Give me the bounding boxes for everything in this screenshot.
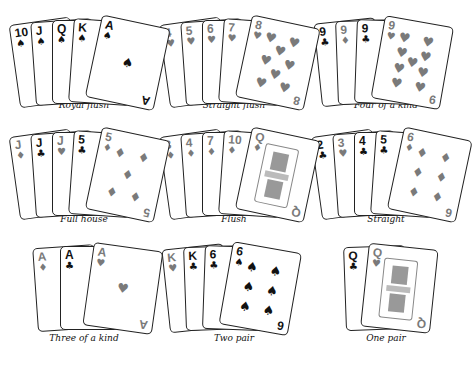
card-rank-bottom: Q	[290, 206, 302, 220]
suit-icon: ♣	[349, 262, 358, 272]
suit-pip-icon: ♥	[416, 65, 430, 80]
suit-pip-icon: ♠	[238, 299, 252, 314]
suit-pip-icon: ♥	[390, 76, 404, 91]
suit-pip-icon: ♦	[430, 190, 444, 205]
hand-royal-flush: 10♠J♠Q♠K♠A♠♠A	[14, 18, 154, 128]
card-rank-bottom: 5	[142, 206, 151, 219]
suit-pip-icon: ♦	[113, 145, 127, 160]
playing-card: 6♠♠♠♠♠♠♠6	[219, 241, 303, 336]
suit-icon: ♣	[379, 145, 389, 156]
suit-icon: ♣	[77, 145, 87, 156]
suit-icon: ♣	[318, 150, 328, 161]
suit-pip-icon: ♥	[419, 49, 433, 64]
suit-icon: ♥	[57, 147, 66, 157]
hand-four-of-a-kind: 9♣9♦9♣9♥♥♥♥♥♥♥♥♥♥9	[316, 18, 456, 128]
suit-icon: ♣	[65, 261, 74, 271]
suit-pip-icon: ♥	[421, 34, 435, 49]
suit-icon: ♣	[320, 37, 330, 48]
suit-icon: ♠	[36, 36, 46, 47]
card-rank-bottom: 8	[292, 94, 301, 107]
playing-card: Q♥Q	[360, 243, 438, 334]
suit-icon: ♦	[227, 145, 237, 156]
suit-pip-icon: ♥	[398, 30, 412, 45]
suit-icon: ♣	[36, 148, 46, 159]
suit-pip-icon: ♥	[282, 58, 296, 73]
suit-icon: ♥	[207, 35, 216, 45]
suit-icon: ♣	[189, 262, 198, 272]
suit-icon: ♣	[359, 147, 368, 157]
queen-face-art	[378, 258, 418, 321]
card-rank-bottom: A	[139, 318, 149, 331]
suit-pip-icon: ♦	[434, 170, 448, 185]
playing-card: A♥♥A	[82, 242, 163, 335]
suit-icon: ♣	[209, 260, 218, 270]
suit-icon: ♥	[168, 263, 178, 274]
card-rank-bottom: Q	[416, 317, 427, 330]
suit-icon: ♠	[16, 38, 26, 49]
suit-pip-icon: ♠	[265, 283, 279, 298]
suit-pip-icon: ♥	[278, 81, 292, 96]
suit-pip-icon: ♥	[413, 80, 427, 95]
suit-icon: ♥	[371, 258, 381, 269]
suit-icon: ♠	[57, 35, 66, 45]
suit-pip-icon: ♥	[287, 35, 301, 50]
card-rank-bottom: 6	[276, 319, 285, 332]
card-rank-bottom: 9	[428, 93, 437, 106]
suit-pip-icon: ♠	[242, 279, 256, 294]
suit-pip-icon: ♦	[121, 167, 135, 182]
suit-pip-icon: ♦	[128, 190, 142, 205]
card-rank-bottom: 6	[444, 206, 453, 219]
suit-pip-icon: ♠	[269, 263, 283, 278]
suit-icon: ♦	[252, 142, 263, 154]
suit-icon: ♦	[16, 150, 26, 161]
suit-icon: ♥	[186, 36, 196, 47]
suit-pip-icon: ♦	[137, 150, 151, 165]
suit-pip-icon: ♥	[392, 61, 406, 76]
suit-pip-icon: ♦	[407, 185, 421, 200]
suit-icon: ♦	[186, 148, 196, 159]
suit-pip-icon: ♥	[254, 76, 268, 91]
suit-pip-icon: ♠	[121, 55, 135, 70]
suit-pip-icon: ♥	[116, 281, 129, 295]
hand-label: Three of a kind	[14, 333, 154, 343]
suit-icon: ♦	[38, 262, 48, 273]
suit-pip-icon: ♦	[439, 150, 453, 165]
suit-icon: ♣	[361, 34, 370, 44]
playing-card: 9♥♥♥♥♥♥♥♥♥♥9	[371, 15, 455, 110]
suit-pip-icon: ♦	[105, 185, 119, 200]
suit-pip-icon: ♠	[245, 259, 259, 274]
suit-pip-icon: ♠	[262, 303, 276, 318]
suit-pip-icon: ♦	[411, 165, 425, 180]
suit-icon: ♠	[77, 33, 87, 44]
suit-icon: ♦	[341, 36, 350, 46]
card-rank-bottom: A	[140, 94, 151, 108]
suit-icon: ♥	[227, 33, 237, 44]
hand-straight-flush: 4♥5♥6♥7♥8♥♥♥♥♥♥♥♥♥8	[164, 18, 304, 128]
suit-pip-icon: ♦	[415, 145, 429, 160]
suit-icon: ♦	[207, 147, 216, 157]
hand-label: One pair	[316, 333, 456, 343]
suit-icon: ♥	[338, 148, 348, 159]
